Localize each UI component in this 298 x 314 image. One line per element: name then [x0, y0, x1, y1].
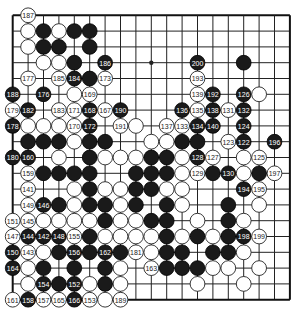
black-stone: 198: [236, 229, 251, 244]
white-stone: [129, 229, 144, 244]
white-stone: 169: [82, 87, 97, 102]
black-stone: 128: [190, 150, 205, 165]
white-stone-circle: [67, 213, 82, 228]
white-stone: 167: [98, 103, 113, 118]
white-stone-circle: [113, 277, 128, 292]
move-number: 166: [68, 297, 80, 304]
black-stone-circle: [82, 198, 97, 213]
white-stone: 155: [67, 229, 82, 244]
move-number: 191: [115, 123, 127, 130]
move-number: 158: [22, 297, 34, 304]
move-number: 128: [192, 154, 204, 161]
white-stone-circle: [236, 150, 251, 165]
white-stone: [175, 229, 190, 244]
white-stone-circle: [52, 55, 67, 70]
black-stone-circle: [221, 213, 236, 228]
white-stone: [52, 119, 67, 134]
move-number: 177: [22, 75, 34, 82]
black-stone: [82, 40, 97, 55]
move-number: 122: [238, 139, 250, 146]
black-stone-circle: [98, 198, 113, 213]
white-stone-circle: [144, 245, 159, 260]
white-stone: [67, 198, 82, 213]
white-stone: 137: [159, 119, 174, 134]
black-stone-circle: [159, 245, 174, 260]
black-stone: [144, 213, 159, 228]
move-number: 163: [145, 265, 157, 272]
black-stone: [221, 229, 236, 244]
move-number: 155: [68, 233, 80, 240]
move-number: 125: [253, 154, 265, 161]
black-stone: [144, 182, 159, 197]
move-number: 184: [68, 75, 80, 82]
black-stone-circle: [144, 166, 159, 181]
black-stone: 186: [98, 55, 113, 70]
white-stone: 181: [129, 245, 144, 260]
black-stone: 194: [236, 182, 251, 197]
white-stone: [21, 277, 36, 292]
white-stone: [236, 277, 251, 292]
black-stone-circle: [82, 245, 97, 260]
move-number: 173: [99, 75, 111, 82]
white-stone-circle: [236, 166, 251, 181]
black-stone: [129, 182, 144, 197]
white-stone: [52, 24, 67, 39]
white-stone-circle: [82, 277, 97, 292]
white-stone: 143: [21, 245, 36, 260]
white-stone-circle: [190, 277, 205, 292]
black-stone: 166: [67, 292, 82, 307]
black-stone-circle: [82, 150, 97, 165]
move-number: 183: [53, 107, 65, 114]
black-stone: [236, 55, 251, 70]
white-stone: [52, 150, 67, 165]
black-stone: [36, 40, 51, 55]
white-stone: 195: [252, 182, 267, 197]
black-stone: [159, 198, 174, 213]
white-stone: [98, 292, 113, 307]
black-stone-circle: [82, 182, 97, 197]
move-number: 195: [253, 186, 265, 193]
black-stone-circle: [221, 229, 236, 244]
move-number: 139: [192, 91, 204, 98]
white-stone: [21, 261, 36, 276]
white-stone: 157: [36, 292, 51, 307]
white-stone-circle: [159, 182, 174, 197]
white-stone-circle: [144, 229, 159, 244]
black-stone-circle: [159, 261, 174, 276]
black-stone-circle: [36, 261, 51, 276]
white-stone: [175, 182, 190, 197]
black-stone: [82, 245, 97, 260]
white-stone: [82, 277, 97, 292]
white-stone-circle: [236, 245, 251, 260]
black-stone: 124: [236, 119, 251, 134]
black-stone: 182: [21, 103, 36, 118]
black-stone-circle: [175, 134, 190, 149]
white-stone: 170: [67, 119, 82, 134]
move-number: 179: [7, 107, 19, 114]
black-stone: [159, 245, 174, 260]
black-stone: [190, 134, 205, 149]
white-stone-circle: [113, 213, 128, 228]
white-stone: [190, 277, 205, 292]
white-stone: 163: [144, 261, 159, 276]
move-number: 133: [176, 123, 188, 130]
white-stone: [67, 213, 82, 228]
black-stone-circle: [252, 166, 267, 181]
white-stone: [129, 119, 144, 134]
white-stone-circle: [129, 213, 144, 228]
move-number: 137: [161, 123, 173, 130]
black-stone: 162: [98, 245, 113, 260]
move-number: 168: [84, 107, 96, 114]
black-stone-circle: [36, 24, 51, 39]
white-stone-circle: [113, 261, 128, 276]
move-number: 187: [22, 12, 34, 19]
move-number: 181: [130, 249, 142, 256]
white-stone: [206, 261, 221, 276]
move-number: 197: [269, 170, 281, 177]
white-stone: 131: [221, 103, 236, 118]
white-stone: [21, 24, 36, 39]
white-stone-circle: [82, 213, 97, 228]
black-stone: [98, 198, 113, 213]
move-number: 131: [222, 107, 234, 114]
black-stone: [67, 261, 82, 276]
